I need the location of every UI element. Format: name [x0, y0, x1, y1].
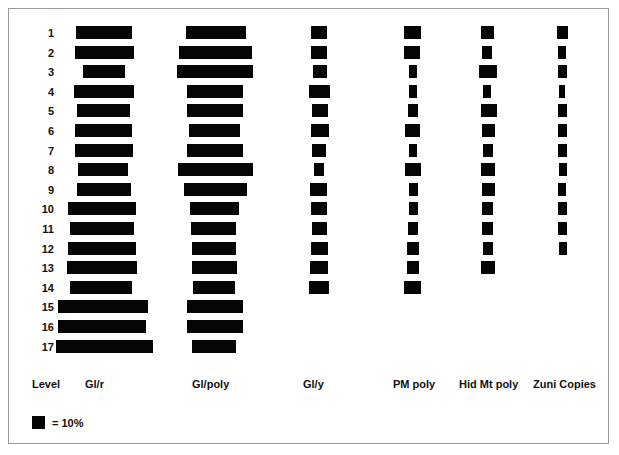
bar — [482, 183, 495, 196]
bar — [192, 340, 236, 353]
bar — [311, 124, 329, 137]
bar — [481, 104, 497, 117]
bar — [409, 183, 418, 196]
bar — [404, 26, 421, 39]
bar — [75, 124, 132, 137]
level-label-4: 4 — [26, 86, 54, 98]
bar — [558, 104, 567, 117]
bar — [74, 85, 134, 98]
bar — [187, 144, 243, 157]
bar — [310, 261, 328, 274]
bar — [558, 144, 567, 157]
bar — [70, 222, 134, 235]
bar — [56, 340, 153, 353]
bar — [187, 300, 243, 313]
legend-label: = 10% — [52, 417, 84, 430]
bar — [481, 163, 495, 176]
level-label-1: 1 — [26, 27, 54, 39]
bar — [311, 46, 327, 59]
level-label-5: 5 — [26, 105, 54, 117]
chart-page: 1234567891011121314151617 Gl/rGl/polyGl/… — [0, 0, 619, 455]
level-label-17: 17 — [26, 341, 54, 353]
bar — [314, 163, 324, 176]
bar — [408, 104, 418, 117]
bar — [187, 104, 243, 117]
bar — [309, 281, 329, 294]
bar — [178, 163, 253, 176]
bar — [190, 202, 239, 215]
bar — [191, 222, 236, 235]
level-label-11: 11 — [26, 223, 54, 235]
bar — [482, 202, 493, 215]
bar — [312, 144, 326, 157]
bar — [67, 261, 137, 274]
bar — [76, 26, 132, 39]
bar — [405, 163, 421, 176]
bar — [559, 242, 567, 255]
bar — [407, 242, 419, 255]
bar — [312, 222, 327, 235]
bar — [558, 46, 566, 59]
bar — [187, 85, 243, 98]
bar — [311, 26, 327, 39]
bar — [557, 26, 568, 39]
bar — [77, 183, 131, 196]
column-header-gl-y: Gl/y — [303, 378, 324, 390]
bar — [83, 65, 125, 78]
level-label-9: 9 — [26, 184, 54, 196]
bar — [187, 320, 243, 333]
level-label-6: 6 — [26, 125, 54, 137]
column-header-zuni-copies: Zuni Copies — [533, 378, 596, 390]
bar — [559, 163, 567, 176]
column-header-hid-mt-poly: Hid Mt poly — [459, 378, 518, 390]
bar — [481, 26, 494, 39]
level-label-13: 13 — [26, 262, 54, 274]
bar — [68, 202, 136, 215]
bar — [78, 163, 128, 176]
bar — [483, 85, 491, 98]
level-label-2: 2 — [26, 47, 54, 59]
bar — [404, 281, 421, 294]
bar — [407, 261, 419, 274]
bar — [58, 300, 148, 313]
bar — [409, 202, 418, 215]
bar — [312, 104, 328, 117]
bar — [192, 261, 237, 274]
bar — [75, 46, 134, 59]
bar — [558, 124, 567, 137]
bar — [558, 65, 567, 78]
column-header-pm-poly: PM poly — [393, 378, 435, 390]
column-header-gl-r: Gl/r — [85, 378, 104, 390]
bar — [177, 65, 253, 78]
bar — [311, 202, 327, 215]
bar — [408, 222, 418, 235]
legend-swatch-icon — [32, 416, 45, 429]
level-label-3: 3 — [26, 66, 54, 78]
bar — [483, 144, 493, 157]
axis-title-level: Level — [32, 378, 60, 390]
level-label-7: 7 — [26, 145, 54, 157]
bar — [310, 183, 327, 196]
bar — [68, 242, 136, 255]
level-label-16: 16 — [26, 321, 54, 333]
bar — [405, 124, 420, 137]
bar — [313, 65, 327, 78]
bar — [479, 65, 497, 78]
bar — [193, 281, 235, 294]
bar — [409, 144, 417, 157]
bar — [184, 183, 247, 196]
bar — [404, 46, 420, 59]
bar — [70, 281, 132, 294]
bar — [189, 124, 240, 137]
bar — [559, 85, 565, 98]
bar — [179, 46, 252, 59]
level-label-8: 8 — [26, 164, 54, 176]
bar — [409, 85, 417, 98]
bar — [186, 26, 246, 39]
seriation-chart: 1234567891011121314151617 Gl/rGl/polyGl/… — [0, 0, 619, 455]
level-label-10: 10 — [26, 203, 54, 215]
column-header-gl-poly: Gl/poly — [192, 378, 229, 390]
bar — [558, 183, 566, 196]
level-label-14: 14 — [26, 282, 54, 294]
bar — [309, 85, 330, 98]
